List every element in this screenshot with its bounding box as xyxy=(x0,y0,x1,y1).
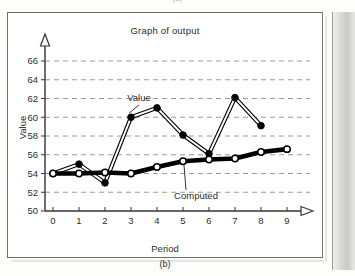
x-tick-label: 6 xyxy=(206,215,211,226)
annotation-label-value: Value xyxy=(127,92,151,103)
annotation-label-computed: Computed xyxy=(174,190,218,201)
y-axis-arrowhead xyxy=(41,34,50,46)
data-point-value[interactable] xyxy=(232,94,239,101)
data-point-computed[interactable] xyxy=(180,158,186,164)
y-tick-label: 60 xyxy=(27,112,38,123)
y-tick-label: 52 xyxy=(27,187,38,198)
x-tick-label: 2 xyxy=(102,215,107,226)
data-point-value[interactable] xyxy=(258,122,265,129)
x-tick-label: 9 xyxy=(284,215,289,226)
annotation-leader-computed xyxy=(184,165,186,190)
y-tick-label: 54 xyxy=(27,168,38,179)
y-tick-label: 62 xyxy=(27,93,38,104)
data-point-computed[interactable] xyxy=(154,164,160,170)
data-point-value[interactable] xyxy=(180,132,187,139)
data-point-computed[interactable] xyxy=(232,155,238,161)
data-point-computed[interactable] xyxy=(102,169,108,175)
x-tick-label: 7 xyxy=(232,215,237,226)
y-tick-label: 58 xyxy=(27,130,38,141)
data-point-computed[interactable] xyxy=(50,170,56,176)
y-tick-label: 66 xyxy=(27,55,38,66)
y-tick-label: 64 xyxy=(27,74,38,85)
x-tick-label: 1 xyxy=(76,215,81,226)
data-point-computed[interactable] xyxy=(76,170,82,176)
y-tick-label: 50 xyxy=(27,205,38,216)
data-point-computed[interactable] xyxy=(258,149,264,155)
data-point-computed[interactable] xyxy=(128,170,134,176)
annotation-leader-value xyxy=(129,105,139,113)
x-tick-label: 8 xyxy=(258,215,263,226)
data-point-computed[interactable] xyxy=(206,156,212,162)
figure-panel: (a) Graph of output Value Period (b) 505… xyxy=(0,0,355,276)
data-point-value[interactable] xyxy=(102,180,109,187)
data-point-value[interactable] xyxy=(128,114,135,121)
x-tick-label: 5 xyxy=(180,215,185,226)
data-point-computed[interactable] xyxy=(284,146,290,152)
x-tick-label: 0 xyxy=(50,215,55,226)
chart-plot-area: 5052545658606264660123456789ValueCompute… xyxy=(0,0,355,276)
data-point-value[interactable] xyxy=(76,161,83,168)
x-axis-arrowhead xyxy=(301,207,313,216)
x-tick-label: 4 xyxy=(154,215,159,226)
y-tick-label: 56 xyxy=(27,149,38,160)
x-tick-label: 3 xyxy=(128,215,133,226)
data-point-value[interactable] xyxy=(154,105,161,112)
